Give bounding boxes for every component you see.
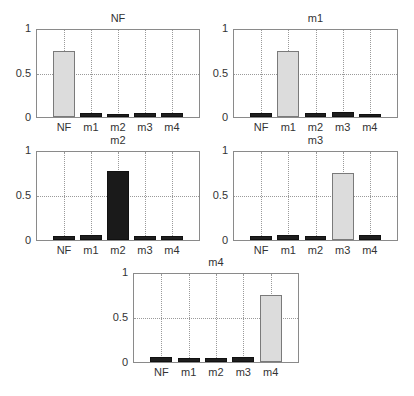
y-tick-label: 0.5 bbox=[7, 67, 31, 79]
bar-nf bbox=[250, 113, 272, 117]
x-tick-label: m2 bbox=[201, 366, 231, 378]
bar-nf bbox=[53, 236, 75, 240]
y-tick-label: 1 bbox=[7, 22, 31, 34]
x-tick-label: m1 bbox=[273, 121, 303, 133]
bar-m1 bbox=[277, 51, 299, 117]
bar-m4 bbox=[359, 235, 381, 240]
gridline-vertical bbox=[145, 152, 146, 240]
y-tick-label: 0 bbox=[7, 234, 31, 246]
y-tick-label: 0 bbox=[204, 234, 228, 246]
x-tick-label: NF bbox=[49, 121, 79, 133]
x-tick-label: m3 bbox=[130, 244, 160, 256]
y-tick-label: 1 bbox=[7, 144, 31, 156]
bar-m4 bbox=[161, 236, 183, 240]
x-tick-label: m4 bbox=[157, 121, 187, 133]
bar-m3 bbox=[232, 357, 254, 362]
bar-m2 bbox=[305, 236, 327, 240]
bar-nf bbox=[150, 357, 172, 362]
y-tick-label: 1 bbox=[204, 144, 228, 156]
gridline-vertical bbox=[243, 274, 244, 362]
y-tick-label: 0.5 bbox=[204, 67, 228, 79]
bar-m2 bbox=[205, 358, 227, 362]
subplot-m4: m4NFm1m2m3m400.51 bbox=[133, 273, 299, 363]
gridline-vertical bbox=[145, 30, 146, 117]
plot-area bbox=[233, 151, 398, 241]
gridline-vertical bbox=[343, 30, 344, 117]
gridline-vertical bbox=[189, 274, 190, 362]
x-tick-label: m3 bbox=[328, 121, 358, 133]
bar-m1 bbox=[178, 358, 200, 362]
bar-m4 bbox=[161, 113, 183, 117]
gridline-vertical bbox=[64, 152, 65, 240]
bar-nf bbox=[53, 51, 75, 117]
y-tick-label: 0 bbox=[204, 111, 228, 123]
y-tick-label: 1 bbox=[104, 266, 128, 278]
plot-area bbox=[36, 151, 200, 241]
bar-m3 bbox=[134, 236, 156, 240]
y-tick-label: 0.5 bbox=[104, 311, 128, 323]
x-tick-label: m4 bbox=[256, 366, 286, 378]
subplot-m1: m1NFm1m2m3m400.51 bbox=[233, 29, 398, 118]
bar-m3 bbox=[134, 113, 156, 117]
gridline-vertical bbox=[370, 152, 371, 240]
bar-m4 bbox=[359, 114, 381, 117]
y-tick-label: 0.5 bbox=[204, 189, 228, 201]
x-tick-label: NF bbox=[246, 244, 276, 256]
gridline-vertical bbox=[288, 152, 289, 240]
gridline-vertical bbox=[172, 152, 173, 240]
plot-area bbox=[36, 29, 200, 118]
plot-area bbox=[233, 29, 398, 118]
gridline-vertical bbox=[216, 274, 217, 362]
bar-m3 bbox=[332, 173, 354, 240]
x-tick-label: m2 bbox=[301, 121, 331, 133]
bar-m3 bbox=[332, 112, 354, 117]
x-tick-label: m2 bbox=[103, 121, 133, 133]
subplot-title: m1 bbox=[233, 12, 398, 24]
gridline-vertical bbox=[316, 152, 317, 240]
x-tick-label: m1 bbox=[76, 244, 106, 256]
gridline-vertical bbox=[172, 30, 173, 117]
y-tick-label: 0 bbox=[104, 356, 128, 368]
subplot-title: m4 bbox=[133, 256, 299, 268]
bar-m2 bbox=[107, 171, 129, 240]
x-tick-label: m2 bbox=[301, 244, 331, 256]
subplot-title: NF bbox=[36, 12, 200, 24]
x-tick-label: m2 bbox=[103, 244, 133, 256]
plot-area bbox=[133, 273, 299, 363]
gridline-vertical bbox=[261, 152, 262, 240]
bar-m2 bbox=[107, 114, 129, 117]
bar-m1 bbox=[277, 235, 299, 240]
bar-m2 bbox=[305, 113, 327, 117]
bar-m4 bbox=[260, 295, 282, 362]
x-tick-label: m1 bbox=[174, 366, 204, 378]
gridline-vertical bbox=[91, 30, 92, 117]
x-tick-label: m4 bbox=[157, 244, 187, 256]
x-tick-label: m3 bbox=[130, 121, 160, 133]
gridline-vertical bbox=[118, 30, 119, 117]
bar-m1 bbox=[80, 235, 102, 240]
x-tick-label: NF bbox=[146, 366, 176, 378]
subplot-title: m2 bbox=[36, 134, 200, 146]
gridline-vertical bbox=[370, 30, 371, 117]
y-tick-label: 0 bbox=[7, 111, 31, 123]
bar-m1 bbox=[80, 113, 102, 117]
gridline-vertical bbox=[316, 30, 317, 117]
x-tick-label: m3 bbox=[228, 366, 258, 378]
x-tick-label: m1 bbox=[76, 121, 106, 133]
gridline-vertical bbox=[261, 30, 262, 117]
x-tick-label: m4 bbox=[355, 244, 385, 256]
subplot-title: m3 bbox=[233, 134, 398, 146]
x-tick-label: NF bbox=[49, 244, 79, 256]
x-tick-label: m4 bbox=[355, 121, 385, 133]
x-tick-label: NF bbox=[246, 121, 276, 133]
gridline-vertical bbox=[91, 152, 92, 240]
subplot-nf: NFNFm1m2m3m400.51 bbox=[36, 29, 200, 118]
y-tick-label: 0.5 bbox=[7, 189, 31, 201]
y-tick-label: 1 bbox=[204, 22, 228, 34]
gridline-vertical bbox=[161, 274, 162, 362]
subplot-m2: m2NFm1m2m3m400.51 bbox=[36, 151, 200, 241]
x-tick-label: m1 bbox=[273, 244, 303, 256]
bar-nf bbox=[250, 236, 272, 240]
subplot-m3: m3NFm1m2m3m400.51 bbox=[233, 151, 398, 241]
x-tick-label: m3 bbox=[328, 244, 358, 256]
